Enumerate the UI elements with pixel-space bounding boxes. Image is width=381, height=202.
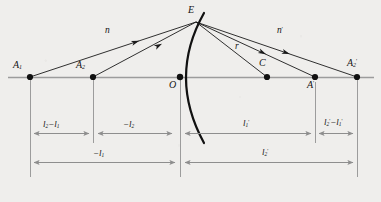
point-label-A2-prime: A2' <box>347 58 357 68</box>
dim-label-l2-prime: l2' <box>262 148 268 158</box>
arrowhead-refracted-2 <box>258 49 267 57</box>
incident-rays <box>30 22 196 77</box>
dim-label-minus-l2: −l2 <box>123 120 134 130</box>
dim-label-minus-l1: −l1 <box>93 149 104 159</box>
point-label-E: E <box>188 5 194 15</box>
dimension-bars <box>34 134 353 163</box>
point-label-C: C <box>259 58 266 68</box>
arrowhead-refracted-1 <box>281 49 290 56</box>
point-A1 <box>27 74 33 80</box>
ray-label-n: n <box>105 26 110 36</box>
incident-ray-from-A1 <box>30 22 196 77</box>
ray-label-n-prime: n' <box>277 26 283 36</box>
point-label-O: O <box>169 80 176 90</box>
point-label-A1: A1 <box>13 60 22 70</box>
arrowhead-incident-1 <box>131 38 140 45</box>
optics-diagram-canvas: A1 A2 O C A' A2' E n r n' l2−l1 −l2 l1' … <box>0 0 381 202</box>
point-C <box>264 74 270 80</box>
arrowhead-incident-2 <box>154 42 163 50</box>
point-label-A2: A2 <box>76 60 85 70</box>
point-O <box>177 74 183 80</box>
point-label-A-prime: A' <box>307 80 314 90</box>
dim-label-l2p-minus-l1p: l2'−l1' <box>324 118 343 128</box>
refracted-ray-to-A-prime <box>196 22 315 77</box>
point-A2 <box>90 74 96 80</box>
diagram-svg <box>0 0 381 202</box>
point-A2-prime <box>354 74 360 80</box>
refracted-ray-arrowheads <box>258 49 291 57</box>
dim-label-l1-prime: l1' <box>243 119 249 129</box>
dim-label-l2-minus-l1: l2−l1 <box>43 120 60 130</box>
ray-label-r: r <box>235 42 239 52</box>
